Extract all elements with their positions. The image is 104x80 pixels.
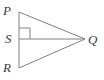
vertex-label-q: Q — [88, 32, 98, 47]
geometry-canvas: P S R Q — [0, 0, 104, 80]
vertex-label-s: S — [5, 31, 12, 46]
vertex-label-r: R — [2, 60, 11, 75]
segment-rq — [19, 39, 85, 68]
geometry-figure: P S R Q — [0, 0, 104, 80]
vertex-label-p: P — [2, 3, 11, 18]
right-angle-marker-icon — [19, 28, 30, 39]
segment-pq — [19, 12, 85, 39]
